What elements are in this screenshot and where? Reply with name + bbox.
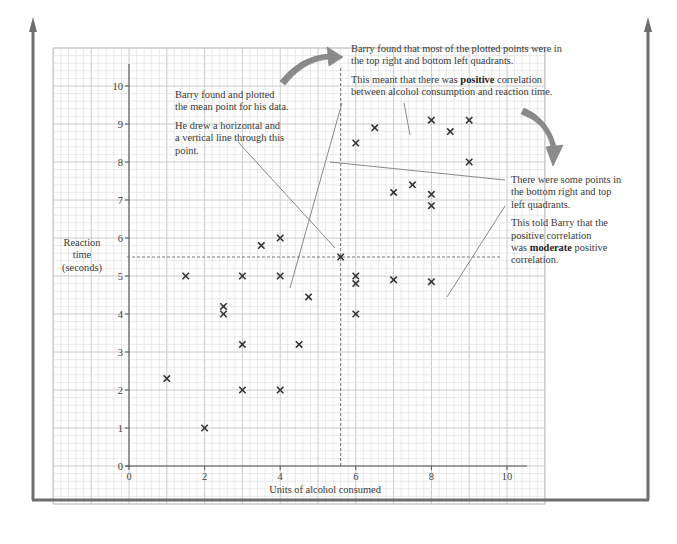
x-tick-label: 8 — [429, 471, 434, 482]
figure: 0123456789100246810 Barry found and plot… — [0, 0, 677, 544]
note-quadrants-p2-post: correlation — [494, 74, 542, 85]
note-moderate-p1-l3: left quadrants. — [511, 199, 570, 210]
y-tick-label: 5 — [118, 271, 123, 282]
note-quadrants: Barry found that most of the plotted poi… — [351, 43, 591, 105]
y-tick-label: 7 — [118, 195, 123, 206]
note-mean-p2-l1: He drew a horizontal and — [175, 120, 280, 131]
note-mean-p2-l2: a vertical line through this — [175, 132, 284, 143]
x-tick-label: 4 — [278, 471, 284, 482]
y-axis-label: Reaction time (seconds) — [54, 237, 110, 274]
y-tick-label: 4 — [118, 309, 124, 320]
y-tick-label: 10 — [113, 81, 124, 92]
y-tick-label: 3 — [118, 347, 123, 358]
note-moderate-p2-post: positive — [572, 242, 608, 253]
note-quadrants-p1-l1: Barry found that most of the plotted poi… — [351, 43, 562, 54]
y-tick-label: 1 — [118, 423, 123, 434]
y-tick-label: 0 — [118, 461, 123, 472]
x-tick-label: 10 — [502, 471, 513, 482]
x-axis-label: Units of alcohol consumed — [200, 484, 450, 495]
y-tick-label: 9 — [118, 119, 123, 130]
y-axis-label-line3: (seconds) — [62, 262, 102, 273]
note-moderate-p2-l1: This told Barry that the — [511, 217, 608, 228]
note-mean-p2-l3: point. — [175, 145, 199, 156]
y-axis-label-line2: time — [73, 249, 91, 260]
note-moderate: There were some points in the bottom rig… — [511, 174, 641, 273]
note-moderate-p1-l2: the bottom right and top — [511, 186, 611, 197]
note-mean-p1-l1: Barry found and plotted — [175, 89, 275, 100]
note-mean-p1-l2: the mean point for his data. — [175, 101, 289, 112]
frame-right-arrow-icon — [644, 17, 652, 32]
x-tick-label: 2 — [202, 471, 207, 482]
note-moderate-p2-pre: was — [511, 242, 530, 253]
note-quadrants-p2-pre: This meant that there was — [351, 74, 460, 85]
note-quadrants-positive-bold: positive — [460, 74, 494, 85]
note-moderate-bold: moderate — [530, 242, 572, 253]
y-tick-label: 2 — [118, 385, 123, 396]
y-axis-label-line1: Reaction — [64, 237, 101, 248]
y-tick-label: 6 — [118, 233, 123, 244]
note-moderate-p2-l4: correlation. — [511, 254, 559, 265]
x-tick-label: 0 — [126, 471, 131, 482]
note-quadrants-p1-l2: the top right and bottom left quadrants. — [351, 55, 513, 66]
note-moderate-p1-l1: There were some points in — [511, 174, 621, 185]
note-quadrants-p2-l2: between alcohol consumption and reaction… — [351, 86, 552, 97]
note-moderate-p2-l2: positive correlation — [511, 230, 592, 241]
y-tick-label: 8 — [118, 157, 123, 168]
x-tick-label: 6 — [353, 471, 358, 482]
frame-left-arrow-icon — [29, 17, 37, 32]
note-mean-point: Barry found and plotted the mean point f… — [175, 89, 325, 163]
